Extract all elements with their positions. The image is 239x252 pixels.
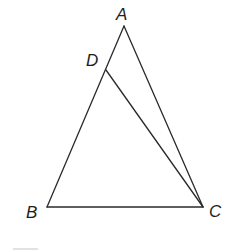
label-b: B xyxy=(26,203,37,222)
segment-dc xyxy=(106,70,203,207)
triangle-diagram: A B C D xyxy=(0,0,239,252)
label-a: A xyxy=(115,5,127,24)
segment-ca xyxy=(124,26,203,207)
label-d: D xyxy=(86,51,98,70)
label-c: C xyxy=(209,202,222,221)
